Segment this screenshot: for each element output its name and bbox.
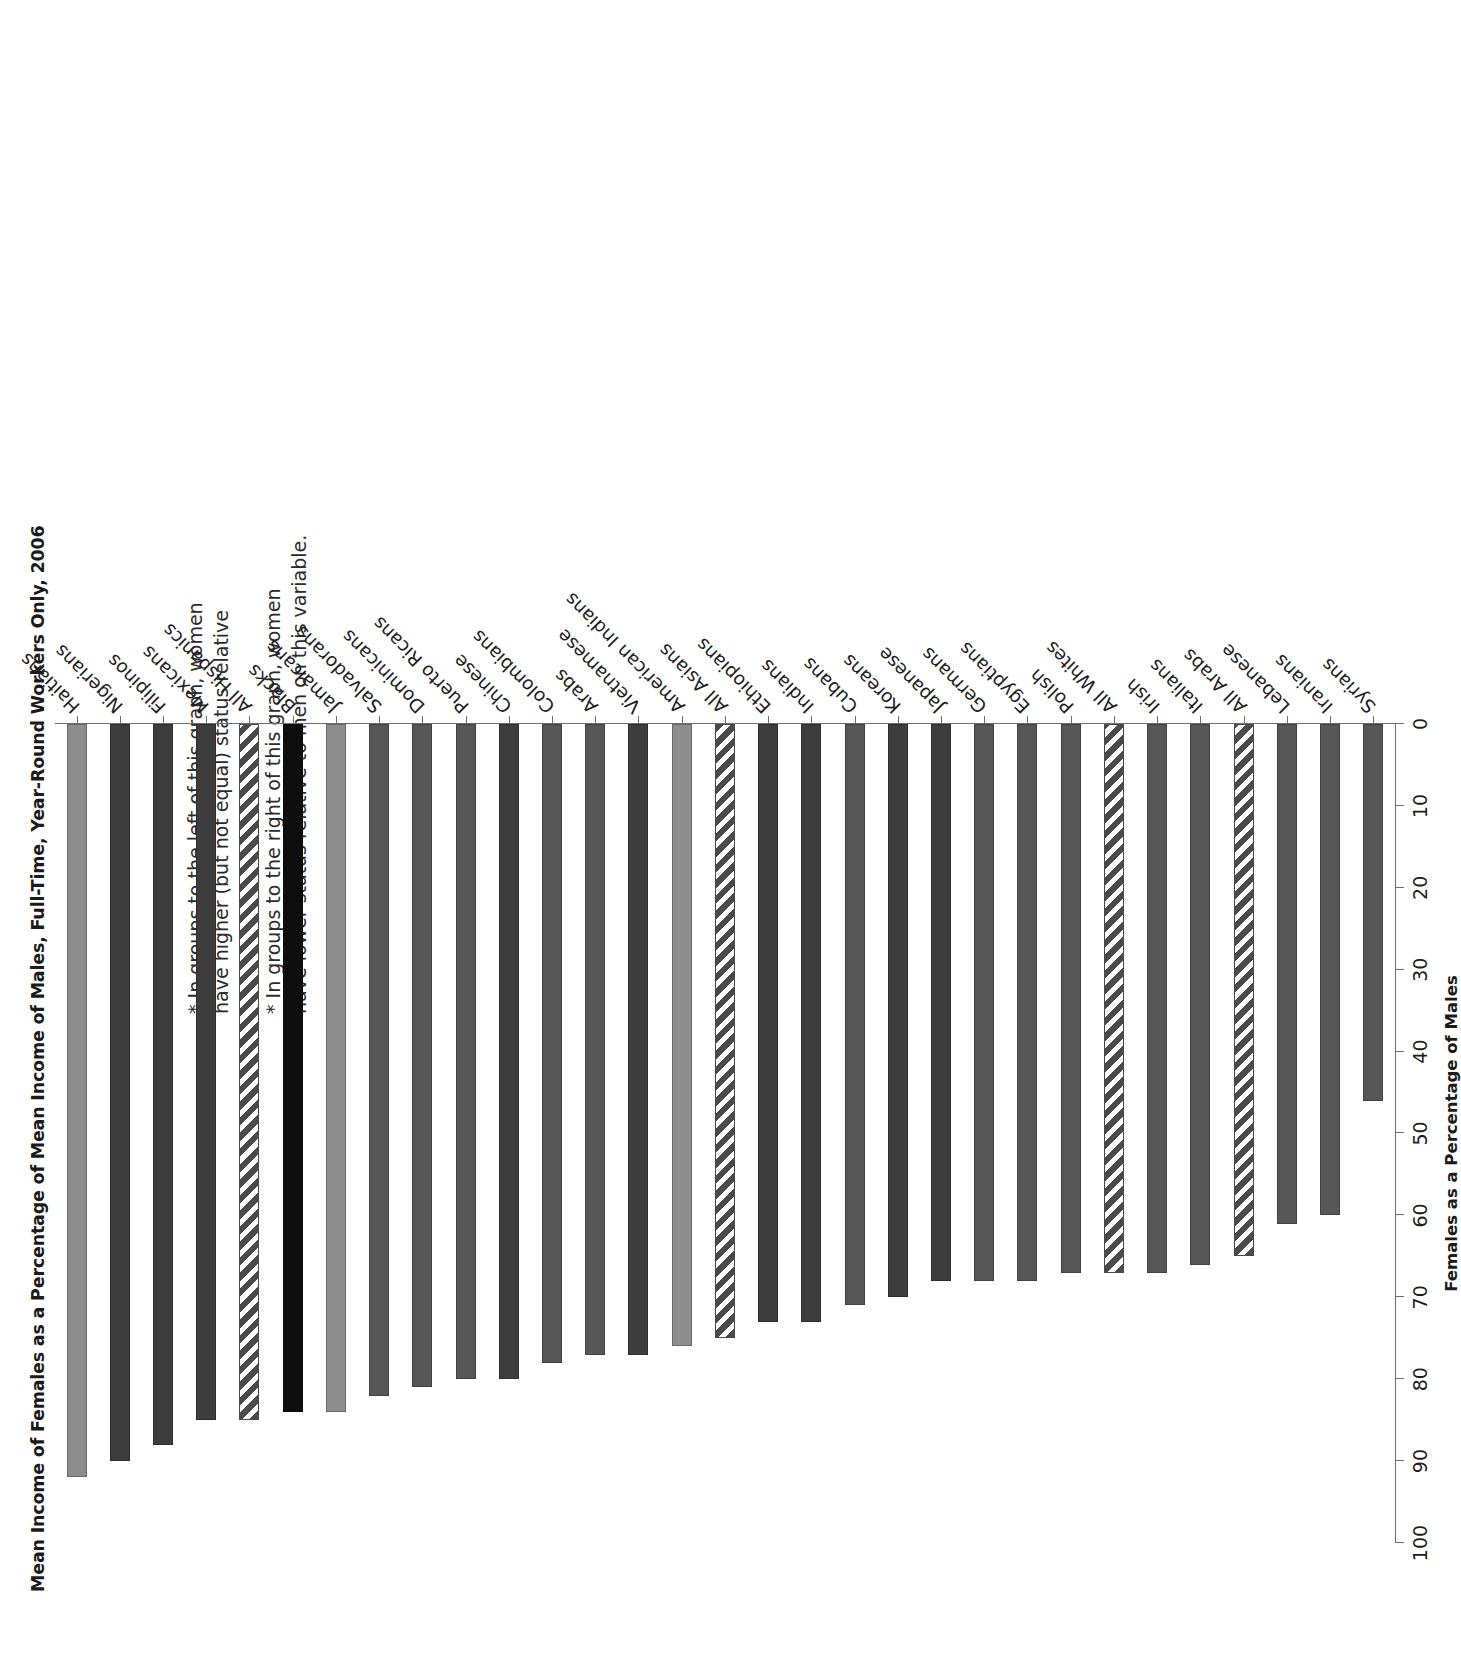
bar-row: Iranians [1308,724,1351,1543]
value-tick-label-40: 40 [1409,1040,1431,1064]
bar-row: Italians [1179,724,1222,1543]
bar-nigerians [110,724,130,1461]
bar-mexicans [196,724,216,1420]
bar-all-hispanics [239,724,259,1420]
value-tick-label-100: 100 [1409,1525,1431,1561]
bar-haitians [67,724,87,1477]
bar-cubans [845,724,865,1305]
bar-row: Jamaicans [314,724,357,1543]
bar-salvadorans [369,724,389,1396]
bar-row: Puerto Ricans [444,724,487,1543]
bar-koreans [888,724,908,1297]
bar-row: Chinese [487,724,530,1543]
value-tick-40 [1395,1051,1404,1052]
category-axis-line [55,723,1395,724]
value-tick-label-30: 30 [1409,958,1431,982]
value-tick-100 [1395,1542,1404,1543]
bar-arabs [585,724,605,1355]
bar-row: Japanese [919,724,962,1543]
bar-all-asians [715,724,735,1338]
bar-row: Blacks [271,724,314,1543]
bar-colombians [542,724,562,1363]
bar-japanese [931,724,951,1281]
value-tick-label-10: 10 [1409,794,1431,818]
bar-all-whites [1104,724,1124,1273]
bar-row: Cubans [833,724,876,1543]
bar-puerto-ricans [456,724,476,1379]
bar-row: Indians [790,724,833,1543]
value-tick-90 [1395,1460,1404,1461]
value-axis-line: 1009080706050403020100 [1395,724,1396,1543]
value-tick-label-70: 70 [1409,1285,1431,1309]
value-tick-label-0: 0 [1409,718,1431,730]
bar-ethiopians [758,724,778,1322]
bar-jamaicans [326,724,346,1412]
bar-vietnamese [628,724,648,1355]
value-tick-80 [1395,1378,1404,1379]
bar-series: HaitiansNigeriansFilipinosMexicansAll Hi… [55,724,1395,1543]
bar-lebanese [1277,724,1297,1224]
bar-row: Lebanese [1265,724,1308,1543]
bar-iranians [1320,724,1340,1215]
value-tick-label-60: 60 [1409,1203,1431,1227]
bar-filipinos [153,724,173,1445]
value-tick-0 [1395,723,1404,724]
value-axis-title: Females as a Percentage of Males [1442,724,1461,1543]
value-tick-label-90: 90 [1409,1449,1431,1473]
bar-row: Irish [1135,724,1178,1543]
bar-germans [974,724,994,1281]
value-tick-70 [1395,1296,1404,1297]
bar-row: Dominicans [401,724,444,1543]
bar-row: Egyptians [1006,724,1049,1543]
bar-blacks [283,724,303,1412]
bar-chinese [499,724,519,1379]
bar-row: Polish [1049,724,1092,1543]
bar-row: Nigerians [98,724,141,1543]
value-tick-50 [1395,1133,1404,1134]
bar-row: Salvadorans [358,724,401,1543]
value-tick-20 [1395,887,1404,888]
bar-row: Haitians [55,724,98,1543]
value-tick-label-80: 80 [1409,1367,1431,1391]
bar-irish [1147,724,1167,1273]
bar-syrians [1363,724,1383,1101]
bar-row: Syrians [1352,724,1395,1543]
bar-row: Vietnamese [617,724,660,1543]
bar-row: Germans [963,724,1006,1543]
bar-row: Ethiopians [747,724,790,1543]
value-tick-label-20: 20 [1409,876,1431,900]
bar-italians [1190,724,1210,1265]
bar-row: All Arabs [1222,724,1265,1543]
bar-all-arabs [1234,724,1254,1256]
bar-row: Arabs [574,724,617,1543]
bar-row: All Asians [703,724,746,1543]
bar-row: Filipinos [141,724,184,1543]
bar-row: All Hispanics [228,724,271,1543]
bar-row: American Indians [660,724,703,1543]
bar-row: Mexicans [185,724,228,1543]
bar-dominicans [412,724,432,1387]
bar-indians [801,724,821,1322]
bar-row: Colombians [530,724,573,1543]
bar-polish [1061,724,1081,1273]
value-tick-label-50: 50 [1409,1121,1431,1145]
value-tick-60 [1395,1214,1404,1215]
bar-american-indians [672,724,692,1346]
plot-area: HaitiansNigeriansFilipinosMexicansAll Hi… [55,724,1395,1543]
value-tick-10 [1395,805,1404,806]
bar-egyptians [1017,724,1037,1281]
bar-row: All Whites [1092,724,1135,1543]
value-tick-30 [1395,969,1404,970]
bar-row: Koreans [876,724,919,1543]
